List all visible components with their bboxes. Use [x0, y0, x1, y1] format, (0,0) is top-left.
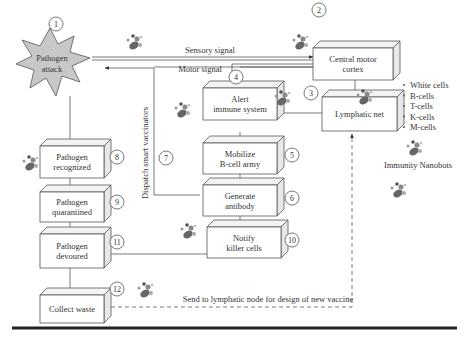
node-4: Alertimmune system	[203, 81, 284, 120]
step-number-3: 3	[304, 86, 318, 100]
node-8: Pathogenrecognized	[40, 139, 111, 178]
svg-text:7: 7	[164, 154, 168, 163]
svg-text:Alert: Alert	[231, 94, 249, 104]
step-number-1: 1	[49, 17, 63, 31]
step-number-9: 9	[110, 195, 124, 209]
step-number-11: 11	[110, 235, 124, 249]
svg-text:11: 11	[113, 238, 121, 247]
svg-text:quarantined: quarantined	[52, 207, 93, 217]
svg-text:antibody: antibody	[225, 201, 255, 211]
step-number-4: 4	[229, 70, 243, 84]
node-12: Collect waste	[40, 288, 111, 323]
svg-text:killer cells: killer cells	[226, 243, 262, 253]
motor-signal-label: Motor signal	[178, 64, 222, 74]
svg-text:9: 9	[115, 198, 119, 207]
svg-text:Notify: Notify	[233, 233, 256, 243]
step-number-6: 6	[285, 191, 299, 205]
svg-text:Lymphatic net: Lymphatic net	[335, 109, 385, 119]
svg-text:4: 4	[234, 73, 238, 82]
svg-text:immune system: immune system	[213, 104, 267, 114]
svg-text:Mobilize: Mobilize	[225, 149, 256, 159]
dispatch-label: Dispatch smart vaccinators	[140, 107, 150, 199]
step-number-10: 10	[285, 233, 299, 247]
node-10: Notifykiller cells	[207, 220, 288, 258]
svg-text:1: 1	[54, 20, 58, 29]
svg-text:Pathogen: Pathogen	[36, 53, 68, 63]
svg-text:Generate: Generate	[225, 191, 256, 201]
step-number-7: 7	[159, 151, 173, 165]
svg-text:Central motor: Central motor	[329, 54, 377, 64]
svg-text:recognized: recognized	[53, 162, 91, 172]
node-6: Generateantibody	[203, 178, 284, 216]
node-5: MobilizeB-cell army	[203, 136, 284, 174]
svg-text:2: 2	[317, 6, 321, 15]
svg-text:B-cells: B-cells	[410, 91, 434, 101]
step-number-8: 8	[110, 150, 124, 164]
svg-text:K-cells: K-cells	[410, 112, 435, 122]
node-3: Lymphatic net	[322, 90, 404, 131]
svg-text:Pathogen: Pathogen	[56, 152, 88, 162]
svg-text:attack: attack	[42, 64, 63, 74]
svg-text:6: 6	[290, 194, 294, 203]
svg-text:Collect waste: Collect waste	[49, 304, 95, 314]
node-11: Pathogendevoured	[40, 227, 111, 268]
svg-text:Pathogen: Pathogen	[56, 197, 88, 207]
sensory-signal-label: Sensory signal	[185, 45, 235, 55]
pathogen-attack-node: Pathogen attack	[16, 28, 90, 96]
immune-flow-diagram: Pathogen attack Sensory signal Motor sig…	[0, 0, 469, 339]
svg-text:8: 8	[115, 153, 119, 162]
step-number-5: 5	[285, 148, 299, 162]
step-number-12: 12	[110, 282, 124, 296]
svg-text:White cells: White cells	[410, 80, 448, 90]
svg-text:T-cells: T-cells	[410, 101, 433, 111]
svg-text:Pathogen: Pathogen	[56, 241, 88, 251]
send-vaccine-label: Send to lymphatic node for design of new…	[183, 294, 354, 304]
node-9: Pathogenquarantined	[40, 185, 111, 222]
svg-text:12: 12	[113, 285, 121, 294]
node-2: Central motorcortex	[313, 41, 400, 80]
svg-text:Immunity Nanobots: Immunity Nanobots	[384, 160, 452, 170]
svg-text:10: 10	[288, 236, 296, 245]
svg-text:5: 5	[290, 151, 294, 160]
svg-text:cortex: cortex	[342, 64, 364, 74]
svg-text:devoured: devoured	[56, 251, 88, 261]
svg-text:B-cell army: B-cell army	[220, 159, 261, 169]
svg-text:M-cells: M-cells	[410, 122, 436, 132]
step-number-2: 2	[312, 3, 326, 17]
svg-text:3: 3	[309, 89, 313, 98]
